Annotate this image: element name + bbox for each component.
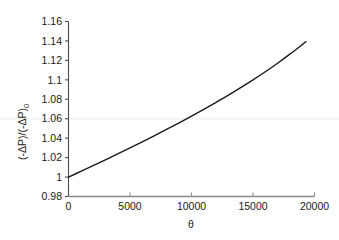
- chart-figure: 0.9811.021.041.061.081.11.121.141.16 050…: [0, 0, 339, 240]
- y-axis-tick-label: 1.16: [42, 15, 63, 27]
- y-axis-tick-label: 1.1: [47, 74, 62, 86]
- y-axis-tick-label: 0.98: [42, 190, 63, 202]
- x-axis-tick-label: 15000: [238, 200, 267, 212]
- y-axis-tick-label: 1.04: [42, 132, 63, 144]
- x-axis-tick-label: 20000: [300, 200, 329, 212]
- y-axis-tick-label: 1: [56, 171, 62, 183]
- x-axis-title-text: θ: [188, 218, 194, 230]
- y-axis-tick-label: 1.14: [42, 35, 63, 47]
- y-axis-title-subscript: 0: [22, 104, 31, 108]
- y-axis-tick-label: 1.02: [42, 151, 63, 163]
- y-axis-tick-label: 1.06: [42, 112, 63, 124]
- x-axis-tick-label: 10000: [177, 200, 206, 212]
- y-axis-tick-label: 1.08: [42, 93, 63, 105]
- y-axis-tick-label: 1.12: [42, 54, 63, 66]
- y-axis-title-main: (-ΔP)/(-ΔP): [16, 108, 28, 160]
- line-chart: 0.9811.021.041.061.081.11.121.141.16 050…: [0, 0, 339, 240]
- x-axis-tick-label: 0: [66, 200, 72, 212]
- x-axis-tick-label: 5000: [118, 200, 142, 212]
